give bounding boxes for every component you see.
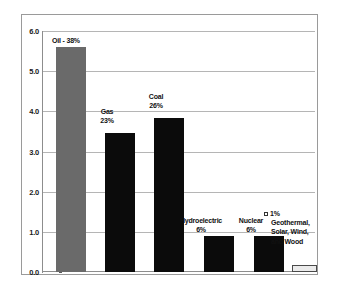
- open-square-legend-icon: [264, 212, 268, 216]
- gridline-6: [43, 31, 315, 32]
- annotation-head: 1%: [264, 209, 320, 218]
- bar-label-oil: Oil - 38%: [36, 36, 96, 45]
- chart-page: 6.0 5.0 4.0 3.0 2.0 1.0 0.0: [0, 0, 342, 300]
- bar-gas[interactable]: [105, 133, 135, 272]
- bar-label-gas: Gas 23%: [85, 107, 129, 125]
- y-axis-tick-labels: 6.0 5.0 4.0 3.0 2.0 1.0 0.0: [17, 31, 39, 272]
- bar-oil[interactable]: [56, 47, 86, 272]
- annotation-percent: 1%: [270, 209, 280, 218]
- bar-label-coal-percent: 26%: [134, 101, 178, 110]
- y-tick-6: 6.0: [29, 27, 39, 36]
- y-tick-0: 0.0: [29, 268, 39, 277]
- y-tick-2: 2.0: [29, 187, 39, 196]
- bar-label-coal-name: Coal: [134, 92, 178, 101]
- bar-label-coal: Coal 26%: [134, 92, 178, 110]
- y-tick-1: 1.0: [29, 227, 39, 236]
- y-tick-5: 5.0: [29, 67, 39, 76]
- bar-hydroelectric[interactable]: [204, 236, 234, 272]
- annotation-line-2: Solar, Wind,: [271, 227, 320, 236]
- bar-other-renewables[interactable]: [292, 265, 317, 272]
- bar-coal[interactable]: [154, 118, 184, 272]
- other-renewables-annotation: 1% Geothermal, Solar, Wind, and Wood: [264, 209, 320, 246]
- y-tickmark-0: [59, 272, 62, 273]
- bar-label-gas-name: Gas: [85, 107, 129, 116]
- y-tick-3: 3.0: [29, 147, 39, 156]
- bar-label-gas-percent: 23%: [85, 116, 129, 125]
- y-tick-4: 4.0: [29, 107, 39, 116]
- annotation-line-3: and Wood: [271, 237, 320, 246]
- annotation-line-1: Geothermal,: [271, 218, 320, 227]
